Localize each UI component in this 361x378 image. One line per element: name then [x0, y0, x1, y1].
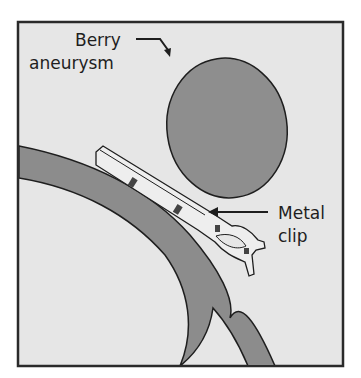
label-metal: Metal	[278, 203, 325, 223]
label-clip: clip	[278, 226, 308, 246]
diagram-canvas: Berry aneurysm Metal clip	[0, 0, 361, 378]
aneurysm-diagram: Berry aneurysm Metal clip	[0, 0, 361, 378]
label-berry: Berry	[75, 30, 121, 50]
label-aneurysm: aneurysm	[29, 53, 114, 73]
